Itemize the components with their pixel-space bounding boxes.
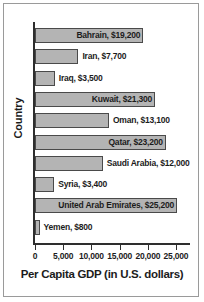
bar	[35, 49, 78, 64]
x-axis-title: Per Capita GDP (in U.S. dollars)	[4, 268, 200, 280]
bar-label: United Arab Emirates, $25,200	[58, 198, 174, 213]
bar-row: Iran, $7,700	[35, 49, 78, 64]
bar	[35, 113, 109, 128]
bar-label: Yemen, $800	[44, 220, 93, 235]
x-axis-line	[33, 243, 190, 245]
bar	[35, 177, 54, 192]
x-tick-mark	[148, 245, 149, 250]
bar-label: Saudi Arabia, $12,000	[107, 156, 190, 171]
x-tick-mark	[120, 245, 121, 250]
bar-label: Bahrain, $19,200	[76, 28, 140, 43]
bar-row: United Arab Emirates, $25,200	[35, 198, 177, 213]
x-tick-mark	[63, 245, 64, 250]
bar-row: Syria, $3,400	[35, 177, 54, 192]
bar-row: Saudi Arabia, $12,000	[35, 156, 103, 171]
bar-row: Yemen, $800	[35, 220, 40, 235]
x-tick-mark	[176, 245, 177, 250]
bar-label: Oman, $13,100	[113, 113, 170, 128]
bar-label: Kuwait, $21,300	[92, 92, 152, 107]
bar-label: Iraq, $3,500	[59, 71, 103, 86]
bar-label: Iran, $7,700	[82, 49, 126, 64]
x-tick-label: 25,000	[156, 251, 196, 261]
chart-frame: Country Bahrain, $19,200Iran, $7,700Iraq…	[3, 3, 199, 297]
bar-label: Qatar, $23,200	[108, 135, 162, 150]
bar	[35, 71, 55, 86]
plot-area: Country Bahrain, $19,200Iran, $7,700Iraq…	[4, 4, 200, 298]
bar	[35, 156, 103, 171]
bar-row: Iraq, $3,500	[35, 71, 55, 86]
y-axis-title: Country	[12, 78, 24, 158]
bar-row: Kuwait, $21,300	[35, 92, 155, 107]
bar-label: Syria, $3,400	[58, 177, 107, 192]
bar	[35, 220, 40, 235]
bar-row: Qatar, $23,200	[35, 135, 166, 150]
x-tick-mark	[35, 245, 36, 250]
x-tick-mark	[91, 245, 92, 250]
bar-row: Oman, $13,100	[35, 113, 109, 128]
bar-row: Bahrain, $19,200	[35, 28, 143, 43]
